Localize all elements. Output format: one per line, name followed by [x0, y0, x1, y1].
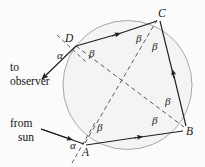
geometry-figure: C B A D α α β β β β β β to observer from…: [0, 0, 205, 167]
angle-label-beta-at-A: β: [97, 122, 102, 133]
angle-label-alpha-at-D: α: [57, 50, 63, 61]
caption-to-observer-line2: observer: [10, 75, 50, 88]
angle-label-beta-at-D: β: [89, 48, 94, 59]
angle-label-beta-at-B-lower: β: [152, 115, 157, 126]
vertex-label-B: B: [186, 126, 193, 138]
caption-to-observer-line1: to: [10, 61, 19, 74]
angle-label-beta-at-C-left: β: [136, 33, 141, 44]
vertex-label-C: C: [158, 8, 166, 20]
caption-from-sun-line1: from: [10, 117, 32, 130]
caption-from-sun-line2: sun: [18, 131, 34, 144]
vertex-label-D: D: [65, 33, 73, 45]
angle-label-beta-at-B-upper: β: [165, 96, 170, 107]
angle-label-alpha-at-A: α: [70, 140, 76, 151]
angle-label-beta-at-C-right: β: [152, 41, 157, 52]
ray-from-sun-arrow: [41, 129, 70, 139]
vertex-label-A: A: [82, 147, 89, 159]
